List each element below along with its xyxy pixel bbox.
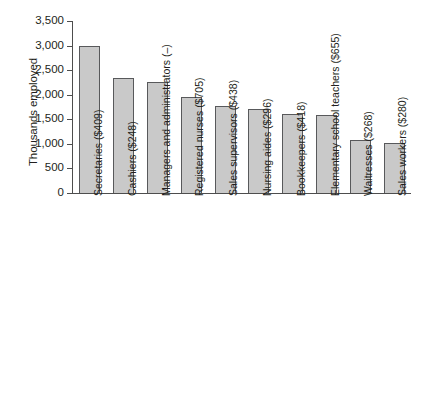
x-axis-category-label: Elementary school teachers ($655) (330, 33, 341, 196)
x-axis-category-label: Registered nurses ($705) (194, 78, 205, 196)
plot-area: 3,5003,0002,5002,0001,5001,0005000 (72, 21, 411, 193)
x-axis-category-label: Managers and administrators (–) (161, 44, 172, 196)
y-axis-tick-label: 500 (20, 162, 64, 174)
x-axis-category-labels: Secretaries ($409)Cashiers ($248)Manager… (72, 196, 411, 356)
y-axis-tick-label: 1,000 (20, 138, 64, 150)
y-axis-tick-label: 3,500 (20, 15, 64, 27)
y-axis-tick-label: 3,000 (20, 40, 64, 52)
x-axis-category-label: Sales workers ($280) (397, 97, 408, 196)
x-axis-category-label: Waitresses ($268) (363, 111, 374, 196)
y-axis-tick (67, 95, 72, 96)
y-axis-tick (67, 70, 72, 71)
x-axis-line (72, 193, 411, 194)
y-axis-tick (67, 144, 72, 145)
x-axis-category-label: Nursing aides ($296) (262, 99, 273, 196)
y-axis-tick (67, 119, 72, 120)
bar-chart-figure: Thousands employed 3,5003,0002,5002,0001… (0, 0, 421, 396)
y-axis-tick (67, 21, 72, 22)
y-axis-tick-label: 2,000 (20, 89, 64, 101)
y-axis-tick-labels: 3,5003,0002,5002,0001,5001,0005000 (20, 21, 64, 193)
x-axis-category-label: Sales supervisors ($438) (228, 80, 239, 196)
y-axis-tick-label: 0 (20, 187, 64, 199)
bar-series (73, 21, 411, 193)
y-axis-tick-label: 2,500 (20, 64, 64, 76)
y-axis-tick (67, 46, 72, 47)
figure-caption (6, 387, 416, 396)
y-axis-tick (67, 193, 72, 194)
x-axis-category-label: Secretaries ($409) (93, 110, 104, 196)
y-axis-tick (67, 168, 72, 169)
x-axis-category-label: Cashiers ($248) (127, 121, 138, 196)
x-axis-category-label: Bookkeepers ($418) (296, 101, 307, 196)
y-axis-tick-label: 1,500 (20, 113, 64, 125)
